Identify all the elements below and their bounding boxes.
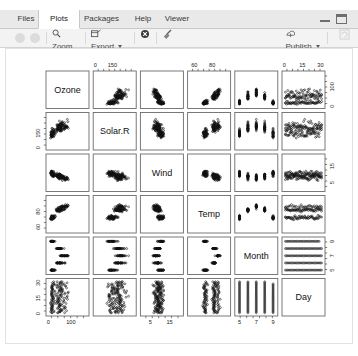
panel-day-vs-solarr [106,281,130,314]
panel-wind-vs-day [284,170,322,181]
axis-label-top-day: 0 [283,62,286,68]
panel-wind-vs-month [239,170,274,181]
axis-label-left-temp: 80 [35,208,41,214]
broom-icon [162,29,173,40]
panel-day-vs-month [239,281,274,314]
publish-icon [286,29,320,38]
toolbar-divider-5 [327,32,328,44]
axis-label-left-solarr: 0 [35,146,41,149]
toolbar-divider-3 [134,32,135,44]
axis-label-right-wind: 15 [329,163,335,169]
axis-label-top-temp: 60 [191,62,197,68]
next-plot-icon[interactable] [30,33,40,43]
panel-month-vs-wind [152,240,165,271]
axis-label-bottom-month: 9 [272,319,275,325]
panel-month-vs-day [284,240,322,271]
axis-label-left-day: 15 [35,295,41,301]
panel-solarr-vs-ozone [50,118,70,139]
panel-month-vs-solarr [106,240,130,271]
diagonal-label-day: Day [295,292,312,302]
panel-temp-vs-wind [152,204,165,221]
axis-label-left-day: 30 [35,280,41,286]
export-button[interactable]: Export [91,29,122,47]
axis-label-bottom-month: 5 [238,319,241,325]
refresh-plot-button[interactable] [339,29,350,47]
panel-ozone-vs-temp [202,88,222,105]
axis-label-right-ozone: 0 [329,105,335,108]
scatterplot-matrix: OzoneSolar.RWindTempMonthDay015060800153… [6,49,352,343]
axis-label-bottom-ozone: 100 [66,319,75,325]
toolbar-divider-2 [85,32,86,44]
panel-month-vs-ozone [50,240,70,271]
panel-solarr-vs-wind [152,118,165,139]
plot-frame: OzoneSolar.RWindTempMonthDay015060800153… [5,48,353,344]
axis-label-left-temp: 60 [35,224,41,230]
remove-plot-button[interactable] [140,29,150,47]
panel-ozone-vs-day [284,88,322,105]
maximize-icon[interactable] [336,13,348,25]
export-icon [91,29,122,38]
tab-viewer[interactable]: Viewer [155,10,199,28]
panel-temp-vs-ozone [50,204,70,221]
panel-month-vs-temp [202,240,222,271]
panel-ozone-vs-wind [152,88,165,105]
panel-solarr-vs-month [239,118,274,139]
panel-temp-vs-day [284,204,322,221]
panel-solarr-vs-day [284,118,322,139]
plot-surface[interactable]: OzoneSolar.RWindTempMonthDay015060800153… [6,49,352,343]
panel-solarr-vs-temp [202,118,222,139]
zoom-button[interactable]: Zoom [52,29,72,47]
axis-label-left-solarr: 150 [35,129,41,138]
axis-label-top-solarr: 150 [108,62,117,68]
axis-label-right-wind: 5 [329,181,335,184]
refresh-icon [339,29,350,40]
diagonal-label-ozone: Ozone [54,85,81,95]
axis-label-top-temp: 80 [209,62,215,68]
axis-label-right-month: 9 [329,240,335,243]
diagonal-label-solarr: Solar.R [100,126,130,136]
plots-pane: Files Plots Packages Help Viewer Zoom [0,10,358,346]
axis-label-bottom-month: 7 [255,319,258,325]
pane-tab-bar: Files Plots Packages Help Viewer [0,10,358,29]
axis-label-left-day: 0 [35,312,41,315]
plots-toolbar: Zoom Export [0,29,358,48]
panel-temp-vs-solarr [106,204,130,221]
panel-wind-vs-solarr [106,170,130,181]
tab-packages[interactable]: Packages [72,10,131,28]
axis-label-bottom-wind: 5 [149,319,152,325]
axis-label-top-solarr: 0 [94,62,97,68]
axis-label-top-day: 30 [317,62,323,68]
zoom-icon [52,29,72,38]
panel-wind-vs-ozone [50,170,70,181]
panel-ozone-vs-month [239,88,274,105]
axis-label-bottom-ozone: 0 [47,319,50,325]
diagonal-label-month: Month [244,251,269,261]
window-buttons [319,13,353,26]
panel-wind-vs-temp [202,170,222,181]
previous-plot-icon[interactable] [15,33,25,43]
axis-label-bottom-wind: 15 [167,319,173,325]
diagonal-label-temp: Temp [198,209,220,219]
diagonal-label-wind: Wind [152,168,173,178]
toolbar-divider-1 [46,32,47,44]
panel-day-vs-temp [202,281,222,314]
panel-ozone-vs-solarr [106,88,130,105]
remove-circle-icon [140,29,150,39]
clear-plots-button[interactable] [162,29,173,47]
panel-temp-vs-month [239,204,274,221]
panel-day-vs-ozone [50,281,70,314]
axis-label-right-month: 7 [329,254,335,257]
axis-label-top-day: 15 [299,62,305,68]
panel-day-vs-wind [152,281,165,314]
publish-button[interactable]: Publish [286,29,320,47]
axis-label-right-ozone: 100 [329,82,335,91]
axis-label-right-month: 5 [329,269,335,272]
minimize-icon[interactable] [319,13,331,25]
toolbar-divider-4 [156,32,157,44]
